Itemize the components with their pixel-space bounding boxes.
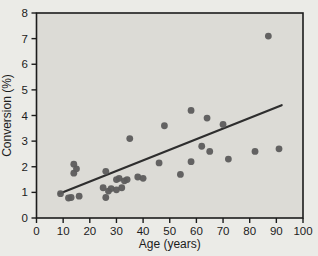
y-tick-label: 8 (22, 7, 28, 19)
y-tick-label: 5 (22, 84, 28, 96)
data-point (73, 165, 80, 172)
data-point (225, 156, 232, 163)
x-tick-label: 40 (137, 225, 150, 237)
data-point (76, 193, 83, 200)
y-tick-label: 7 (22, 33, 28, 45)
x-tick-label: 20 (83, 225, 96, 237)
x-tick-label: 100 (293, 225, 312, 237)
data-point (124, 176, 131, 183)
y-tick-label: 3 (22, 135, 28, 147)
data-point (102, 168, 109, 175)
data-point (140, 175, 147, 182)
data-point (177, 171, 184, 178)
y-tick-label: 4 (22, 110, 29, 122)
data-point (265, 33, 272, 40)
x-axis-title: Age (years) (139, 237, 201, 251)
data-point (220, 121, 227, 128)
x-tick-label: 10 (57, 225, 70, 237)
data-point (188, 107, 195, 114)
data-point (156, 160, 163, 167)
scatter-chart: 0123456780102030405060708090100Age (year… (0, 0, 318, 256)
data-point (126, 135, 133, 142)
x-tick-label: 70 (217, 225, 230, 237)
y-tick-label: 6 (22, 58, 28, 70)
data-point (102, 194, 109, 201)
y-tick-label: 0 (22, 212, 28, 224)
data-point (57, 190, 64, 197)
data-point (276, 145, 283, 152)
data-point (198, 143, 205, 150)
data-point (161, 122, 168, 129)
y-axis-title: Conversion (%) (0, 74, 14, 157)
data-point (252, 148, 259, 155)
y-tick-label: 2 (22, 161, 28, 173)
x-tick-label: 60 (190, 225, 203, 237)
x-tick-label: 80 (243, 225, 256, 237)
x-tick-label: 50 (163, 225, 176, 237)
scatter-figure: 0123456780102030405060708090100Age (year… (0, 0, 318, 256)
data-point (68, 194, 75, 201)
data-point (204, 115, 211, 122)
data-point (118, 184, 125, 191)
data-point (188, 158, 195, 165)
data-point (206, 148, 213, 155)
x-tick-label: 90 (270, 225, 283, 237)
y-tick-label: 1 (22, 186, 28, 198)
x-tick-label: 30 (110, 225, 123, 237)
x-tick-label: 0 (33, 225, 39, 237)
